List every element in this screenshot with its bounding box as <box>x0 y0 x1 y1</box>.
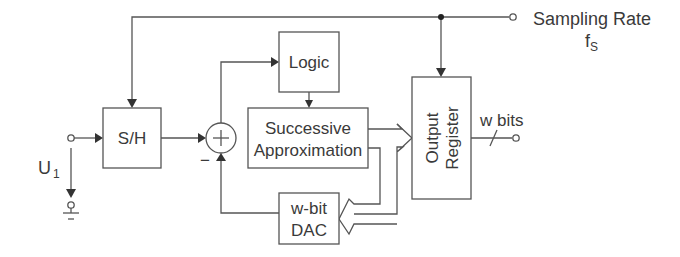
output-register-label-line1: Output <box>423 112 442 163</box>
sa-label-line2: Approximation <box>254 141 363 160</box>
dac-block: w-bit DAC <box>279 193 339 244</box>
output-bits-label: w bits <box>479 111 523 130</box>
output-register-label-line2: Register <box>443 106 462 170</box>
logic-label: Logic <box>289 53 330 72</box>
sample-hold-label: S/H <box>118 129 146 148</box>
successive-approximation-block: Successive Approximation <box>248 108 368 168</box>
sample-hold-block: S/H <box>103 108 161 168</box>
summing-junction <box>206 123 236 153</box>
output-line <box>471 130 519 146</box>
sa-label-line1: Successive <box>265 119 351 138</box>
input-terminal-group <box>63 133 103 219</box>
sampling-frequency-label: fS <box>585 31 598 54</box>
sampling-rate-label: Sampling Rate <box>533 9 651 29</box>
input-terminal <box>68 135 74 141</box>
dac-label-line1: w-bit <box>290 199 327 218</box>
sampling-rate-terminal <box>510 14 516 20</box>
dac-label-line2: DAC <box>291 221 327 240</box>
ground-terminal <box>68 202 74 208</box>
output-terminal <box>513 135 519 141</box>
output-register-block: Output Register <box>412 77 471 199</box>
input-voltage-label: U1 <box>38 158 60 181</box>
sar-adc-diagram: Sampling Rate fS U1 S/H − Logic <box>0 0 680 257</box>
junction-dot <box>438 14 444 20</box>
negative-sign: − <box>200 151 210 170</box>
logic-block: Logic <box>279 32 339 92</box>
